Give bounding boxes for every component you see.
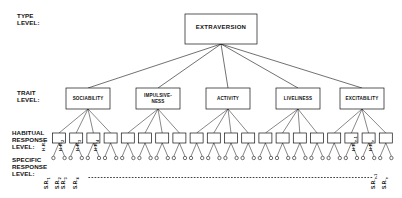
trait-node-box	[340, 88, 384, 109]
specific-response-circle	[103, 156, 106, 159]
specific-response-circle	[327, 156, 330, 159]
specific-response-level-label: SPECIFIC RESPONSE LEVEL:	[12, 156, 47, 178]
type-level-label: TYPE LEVEL:	[17, 12, 40, 26]
habitual-node-box	[276, 133, 289, 143]
specific-response-circle	[252, 156, 255, 159]
habitual-node-label: H.R.4	[93, 139, 100, 150]
habitual-node-box	[379, 133, 392, 143]
specific-response-circle	[258, 156, 261, 159]
specific-response-circle	[52, 156, 55, 159]
habitual-node-box	[225, 133, 238, 143]
specific-response-circles	[52, 156, 393, 159]
specific-response-circle	[293, 156, 296, 159]
specific-response-circle	[235, 156, 238, 159]
specific-response-circle	[224, 156, 227, 159]
specific-response-circle	[321, 156, 324, 159]
specific-response-circle	[344, 156, 347, 159]
specific-response-circle	[269, 156, 272, 159]
specific-response-label: S.R.4	[73, 177, 80, 189]
specific-response-circle	[86, 156, 89, 159]
specific-response-circle	[275, 156, 278, 159]
specific-response-circle	[355, 156, 358, 159]
trait-node-box	[206, 88, 250, 109]
specific-response-label: S.R.3	[61, 177, 68, 189]
habitual-node-box	[190, 133, 203, 143]
specific-response-circle	[189, 156, 192, 159]
specific-response-circle	[207, 156, 210, 159]
habitual-node-box	[139, 133, 152, 143]
trait-node-box	[136, 88, 180, 109]
specific-response-circle	[80, 156, 83, 159]
specific-response-circle	[63, 156, 66, 159]
specific-response-circle	[373, 156, 376, 159]
habitual-node-box	[156, 133, 169, 143]
specific-response-label: S.R.1	[44, 177, 51, 189]
specific-response-circle	[201, 156, 204, 159]
specific-response-circle	[304, 156, 307, 159]
specific-response-circle	[166, 156, 169, 159]
specific-response-label: S.R.n	[382, 177, 389, 189]
specific-response-circle	[361, 156, 364, 159]
specific-response-circle	[149, 156, 152, 159]
type-box	[185, 14, 257, 44]
specific-response-label: S.R.n-1	[371, 174, 378, 189]
habitual-node-box	[242, 133, 255, 143]
specific-response-circle	[338, 156, 341, 159]
specific-response-circle	[183, 156, 186, 159]
edges-habitual-to-specific	[53, 143, 391, 156]
specific-response-circle	[115, 156, 118, 159]
habitual-node-box	[104, 133, 117, 143]
specific-response-circle	[69, 156, 72, 159]
specific-response-circle	[155, 156, 158, 159]
trait-level-label: TRAIT LEVEL:	[17, 89, 40, 103]
specific-response-circle	[121, 156, 124, 159]
specific-response-circle	[310, 156, 313, 159]
specific-response-circle	[138, 156, 141, 159]
trait-node-box	[66, 88, 110, 109]
edges-trait-to-habitual	[59, 109, 386, 133]
habitual-node-label: H.R.n-1	[351, 136, 358, 151]
habitual-node-box	[259, 133, 272, 143]
specific-response-circle	[241, 156, 244, 159]
trait-node-box	[276, 88, 320, 109]
diagram-canvas: TYPE LEVEL: TRAIT LEVEL: HABITUAL RESPON…	[0, 0, 402, 198]
habitual-node-box	[293, 133, 306, 143]
habitual-node-box	[207, 133, 220, 143]
specific-response-circle	[172, 156, 175, 159]
habitual-node-box	[121, 133, 134, 143]
type-node-box	[185, 14, 257, 44]
habitual-boxes	[53, 133, 393, 143]
specific-response-circle	[379, 156, 382, 159]
habitual-node-label: H.R.2	[58, 139, 65, 150]
diagram-svg	[0, 0, 402, 198]
specific-response-circle	[132, 156, 135, 159]
habitual-node-box	[311, 133, 324, 143]
habitual-node-box	[173, 133, 186, 143]
specific-response-circle	[218, 156, 221, 159]
habitual-node-label: H.R.1	[41, 139, 48, 150]
specific-response-circle	[97, 156, 100, 159]
habitual-node-label: H.R.3	[75, 139, 82, 150]
habitual-node-box	[328, 133, 341, 143]
edges-type-to-trait	[88, 44, 362, 88]
specific-response-circle	[287, 156, 290, 159]
habitual-node-label: H.R.n	[368, 139, 375, 150]
trait-boxes	[66, 88, 384, 109]
specific-response-circle	[390, 156, 393, 159]
